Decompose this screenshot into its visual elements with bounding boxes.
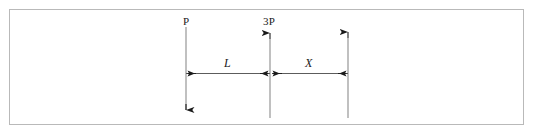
load-label-3p: 3P [263,16,275,27]
dimension-label-l: L [224,57,231,69]
load-label-p: P [183,16,189,27]
beam-load-diagram-figure: P 3P L X [0,0,536,137]
dimension-label-x: X [305,57,312,69]
